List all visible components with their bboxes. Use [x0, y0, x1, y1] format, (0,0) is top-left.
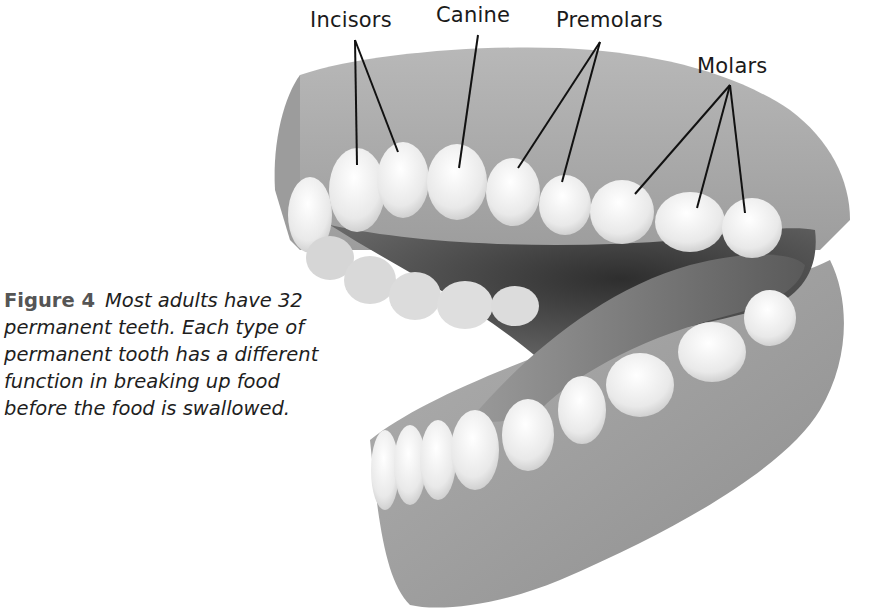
- label-canine: Canine: [436, 3, 510, 27]
- label-molars: Molars: [697, 54, 767, 78]
- figure-caption: Figure 4Most adults have 32 permanent te…: [4, 287, 334, 422]
- label-premolars: Premolars: [556, 8, 663, 32]
- label-incisors: Incisors: [310, 8, 392, 32]
- figure-stage: Incisors Canine Premolars Molars Figure …: [0, 0, 890, 615]
- figure-number: Figure 4: [4, 289, 95, 312]
